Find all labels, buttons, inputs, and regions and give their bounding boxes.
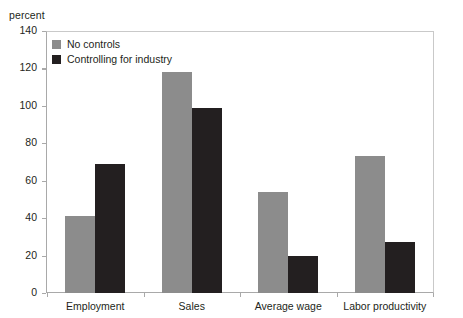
y-axis-tick-mark [42,68,46,69]
bar [162,72,192,293]
bar [95,164,125,293]
bar [385,242,415,293]
legend-swatch-icon [52,40,61,49]
y-axis-tick-label: 40 [25,211,37,223]
legend-label: Controlling for industry [67,54,172,65]
legend-item: No controls [52,38,172,51]
y-axis-tick-label: 0 [31,286,37,298]
y-axis-tick-label: 100 [19,99,37,111]
y-axis-tick-label: 20 [25,249,37,261]
x-axis-category-label: Average wage [255,300,322,312]
y-axis-tick-mark [42,143,46,144]
y-axis-tick-mark [42,218,46,219]
y-axis-tick-mark [42,256,46,257]
bars-layer [47,31,433,293]
bar [65,216,95,293]
x-axis-tick-mark [433,293,434,297]
legend-item: Controlling for industry [52,53,172,66]
x-axis-tick-mark [240,293,241,297]
y-axis-tick-mark [42,106,46,107]
x-axis-category-label: Employment [66,300,124,312]
bar-chart: percent 020406080100120140 EmploymentSal… [0,0,463,318]
x-axis-category-label: Sales [179,300,205,312]
y-axis-tick-label: 120 [19,61,37,73]
y-axis-tick-mark [42,31,46,32]
y-axis-tick-mark [42,181,46,182]
bar [192,108,222,293]
y-axis-tick-mark [42,293,46,294]
y-axis-tick-label: 60 [25,174,37,186]
x-axis-category-label: Labor productivity [343,300,426,312]
legend-swatch-icon [52,55,61,64]
x-axis-tick-mark [144,293,145,297]
x-axis-tick-mark [47,293,48,297]
chart-legend: No controlsControlling for industry [52,38,172,68]
y-axis-unit-label: percent [9,9,45,21]
legend-label: No controls [67,39,120,50]
y-axis-tick-label: 140 [19,24,37,36]
bar [288,256,318,293]
x-axis-tick-mark [337,293,338,297]
bar [258,192,288,293]
y-axis-tick-label: 80 [25,136,37,148]
bar [355,156,385,293]
